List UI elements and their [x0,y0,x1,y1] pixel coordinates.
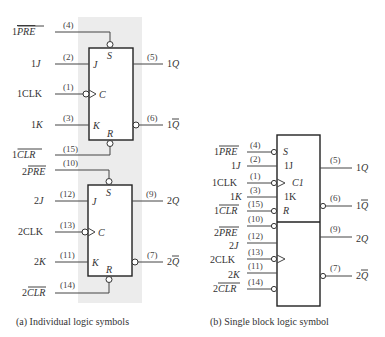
block-r-label: R [282,205,289,216]
ff2-clr-label: 2CLR [22,287,45,298]
ff1-k-inner: K [92,120,101,131]
ff2-pre-label: 2PRE [22,166,45,177]
panel-b-single-block: S 1J C1 1K R (4) 1PRE (2) 1J (1) 1CLK (3… [210,135,369,328]
block-c1-label: C1 [292,177,304,188]
b-1qbar-bubble [320,203,325,208]
b-1clr-label: 1CLR [214,205,237,216]
caption-b: (b) Single block logic symbol [210,316,329,328]
b-1clk-pin: (1) [250,171,261,181]
b-1clk-bubble [271,180,276,185]
ff1-clr-pin: (15) [63,144,78,154]
b-1clr-bubble [271,208,276,213]
ff2-j-pin: (12) [60,189,75,199]
b-2q-pin: (9) [330,224,341,234]
ff2-clk-pin: (13) [60,220,75,230]
b-2clr-bubble [271,286,276,291]
ff2-clk-label: 2CLK [18,226,44,237]
ff1-pre-bubble [107,42,113,48]
b-2qbar-label: 2Q [356,270,369,281]
ff2-pre-bubble [106,179,112,185]
b-2pre-pin: (10) [248,214,263,224]
ff2-c-inner: C [98,227,105,238]
ff1-clr-bubble [107,141,113,147]
block-s-label: S [283,146,288,157]
b-1pre-pin: (4) [250,140,261,150]
ff1-r-inner: R [106,128,113,139]
ff2-s-label: S [106,187,111,198]
ff1-j-inner: J [93,59,98,70]
ff1-clk-bubble [83,91,89,97]
ff2-clr-pin: (14) [60,280,75,290]
ff2-clr-bubble [106,277,112,283]
ff1-clk-label: 1CLK [17,88,43,99]
ff2-clk-bubble [82,229,88,235]
ff2-k-inner: K [91,257,100,268]
ff1-pre-pin: (4) [63,20,74,30]
ff2-k-pin: (11) [60,250,75,260]
ff2-k-label: 2K [34,256,47,267]
ff1-k-label: 1K [31,119,44,130]
ff2-pre-pin: (10) [63,158,78,168]
jk-flipflop-diagram: 1PRE (4) S 1J (2) J 1CLK (1) C 1K (3) K … [0,0,385,337]
ff1-k-pin: (3) [63,113,74,123]
b-2k-label: 2K [228,269,241,280]
ff1-j-pin: (2) [63,52,74,62]
b-2clr-label: 2CLR [213,283,236,294]
b-1k-label: 1K [230,191,243,202]
ff2-j-label: 2J [34,195,44,206]
caption-a: (a) Individual logic symbols [16,316,129,328]
ff1-qbar-bubble [133,122,139,128]
ff1-qbar-pin: (6) [147,113,158,123]
ff2-qbar-label: 2Q [167,256,180,267]
b-2clk-label: 2CLK [210,254,236,265]
ff2-j-inner: J [92,196,97,207]
block-1j-label: 1J [284,160,293,171]
b-1clk-label: 1CLK [212,177,238,188]
ff1-c-inner: C [99,89,106,100]
b-2clr-pin: (14) [248,277,263,287]
b-2clk-pin: (13) [248,247,263,257]
b-2clk-bubble [271,256,276,261]
b-2qbar-pin: (7) [330,263,341,273]
b-1j-pin: (2) [250,154,261,164]
b-2pre-label: 2PRE [214,227,237,238]
b-1k-pin: (3) [250,185,261,195]
b-1j-label: 1J [231,160,241,171]
b-2q-label: 2Q [356,233,369,244]
ff1-j-label: 1J [31,58,41,69]
b-2j-label: 2J [229,240,239,251]
ff1-q-pin: (5) [147,52,158,62]
ff1-q-label: 1Q [167,58,180,69]
ff1-s-label: S [107,50,112,61]
ff2-q-pin: (9) [146,189,157,199]
ff1-pre-label: 1PRE [12,26,35,37]
ff2-qbar-pin: (7) [147,250,158,260]
b-1clr-pin: (15) [248,199,263,209]
ff2-q-label: 2Q [167,195,180,206]
b-2j-pin: (12) [248,231,263,241]
ff1-qbar-label: 1Q [167,119,180,130]
ff1-clk-pin: (1) [63,82,74,92]
b-2pre-bubble [271,223,276,228]
b-1pre-label: 1PRE [214,146,237,157]
b-1q-pin: (5) [330,155,341,165]
b-1pre-bubble [271,149,276,154]
b-1qbar-label: 1Q [356,200,369,211]
ff2-r-inner: R [105,264,112,275]
ff2-qbar-bubble [132,259,138,265]
b-1qbar-pin: (6) [330,193,341,203]
b-2k-pin: (11) [248,261,263,271]
block-1k-label: 1K [284,191,297,202]
b-2qbar-bubble [320,273,325,278]
ff1-clr-label: 1CLR [12,149,35,160]
b-1q-label: 1Q [356,162,369,173]
panel-a-individual-symbols: 1PRE (4) S 1J (2) J 1CLK (1) C 1K (3) K … [12,17,180,328]
